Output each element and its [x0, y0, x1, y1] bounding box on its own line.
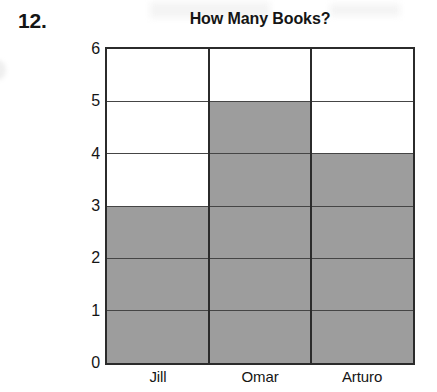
x-axis-tick-label: Omar: [209, 369, 311, 386]
question-number: 12.: [18, 10, 47, 31]
gridline-horizontal: [107, 206, 413, 207]
y-axis-tick-label: 0: [76, 355, 100, 371]
y-axis-tick-label: 2: [76, 250, 100, 266]
gridline-horizontal: [107, 153, 413, 154]
plot-inner: [107, 49, 413, 363]
x-axis-tick-labels: JillOmarArturo: [105, 369, 415, 391]
y-axis-tick-label: 1: [76, 303, 100, 319]
x-axis-tick-label: Jill: [107, 369, 209, 386]
y-axis-tick-label: 6: [76, 41, 100, 57]
gridline-horizontal: [107, 101, 413, 102]
y-axis-tick-label: 3: [76, 198, 100, 214]
gridline-vertical: [310, 49, 312, 363]
chart-title: How Many Books?: [105, 10, 415, 28]
bar: [209, 101, 311, 363]
gridline-horizontal: [107, 258, 413, 259]
bar: [107, 206, 209, 363]
plot-area: [105, 47, 415, 365]
x-axis-tick-label: Arturo: [311, 369, 413, 386]
gridline-vertical: [208, 49, 210, 363]
gridline-horizontal: [107, 310, 413, 311]
scan-artifact-blob: [0, 60, 6, 80]
y-axis-tick-label: 4: [76, 146, 100, 162]
y-axis-tick-label: 5: [76, 93, 100, 109]
y-axis-tick-labels: 0123456: [74, 47, 100, 365]
